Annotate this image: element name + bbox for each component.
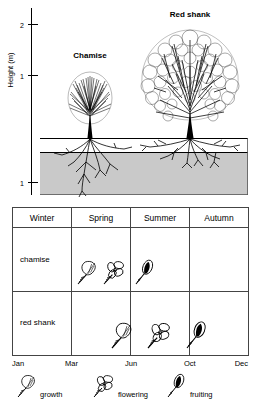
table-row-label-redshank: red shank xyxy=(20,318,56,327)
legend-fruiting-label: fruiting xyxy=(190,390,213,399)
redshank-plant-label: Red shank xyxy=(170,10,211,19)
table-row-label-chamise: chamise xyxy=(20,255,50,264)
legend-flowering-label: flowering xyxy=(118,390,148,399)
shrub-profile-diagram: 2 1 1 Height (m) Chamise xyxy=(0,0,264,200)
chamise-plant-label: Chamise xyxy=(73,51,107,60)
month-label-mar: Mar xyxy=(65,359,78,368)
legend-growth-label: growth xyxy=(40,390,63,399)
y-axis-title: Height (m) xyxy=(6,52,15,88)
y-tick-label-1-lower: 1 xyxy=(20,180,24,187)
y-tick-label-1-upper: 1 xyxy=(20,73,24,80)
month-label-oct: Oct xyxy=(184,359,197,368)
ground-surface-band xyxy=(40,138,248,152)
table-header-spring: Spring xyxy=(89,213,114,223)
legend-flowering: flowering xyxy=(94,375,148,399)
month-label-dec: Dec xyxy=(235,359,249,368)
month-label-jun: Jun xyxy=(125,359,137,368)
legend-growth: growth xyxy=(18,375,63,399)
month-label-jan: Jan xyxy=(12,359,24,368)
table-header-summer: Summer xyxy=(144,213,176,223)
table-header-autumn: Autumn xyxy=(204,213,234,223)
table-header-winter: Winter xyxy=(30,213,55,223)
chamise-plant xyxy=(68,72,112,138)
soil-block xyxy=(40,152,248,195)
phenology-table: Winter Spring Summer Autumn chamise red … xyxy=(0,204,264,405)
legend-fruiting: fruiting xyxy=(168,373,213,399)
redshank-plant xyxy=(141,30,239,138)
y-tick-label-2: 2 xyxy=(20,22,24,29)
